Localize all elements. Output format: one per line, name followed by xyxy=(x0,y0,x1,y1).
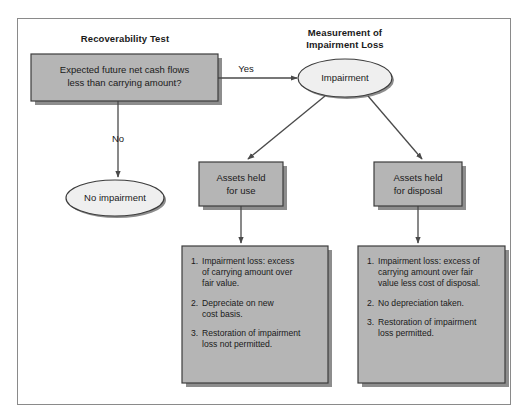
disposal-details-item: 3.Restoration of impairment loss permitt… xyxy=(367,317,501,339)
impairment-flowchart-figure: Recoverability Test Measurement of Impai… xyxy=(0,0,528,419)
use-details-item-text: Impairment loss: excess of carrying amou… xyxy=(202,256,323,290)
edge-impairment-to-held-for-disposal xyxy=(368,96,422,159)
use-details-item-number: 3. xyxy=(191,328,202,350)
heading-measurement-of-impairment-loss: Measurement of Impairment Loss xyxy=(275,27,415,51)
decision-box-label: Expected future net cash flows less than… xyxy=(33,64,216,89)
use-details-item-text: Restoration of impairment loss not permi… xyxy=(202,328,323,350)
disposal-details-list: 1.Impairment loss: excess of carrying am… xyxy=(367,256,501,339)
held-for-use-label: Assets held for use xyxy=(199,172,283,197)
use-details-list: 1.Impairment loss: excess of carrying am… xyxy=(191,256,323,350)
edge-label-no: No xyxy=(103,133,133,144)
disposal-details-item-number: 2. xyxy=(367,298,378,309)
edge-impairment-to-held-for-use xyxy=(248,96,325,159)
no-impairment-label: No impairment xyxy=(66,192,164,205)
disposal-details-item-number: 1. xyxy=(367,256,378,290)
edge-label-yes: Yes xyxy=(229,63,263,74)
held-for-disposal-label: Assets held for disposal xyxy=(374,172,462,197)
use-details-item-text: Depreciate on new cost basis. xyxy=(202,298,323,320)
heading-recoverability-test: Recoverability Test xyxy=(55,33,195,45)
use-details-item: 3.Restoration of impairment loss not per… xyxy=(191,328,323,350)
disposal-details-item-text: Restoration of impairment loss permitted… xyxy=(378,317,501,339)
flowchart-canvas xyxy=(0,0,528,419)
disposal-details-item-number: 3. xyxy=(367,317,378,339)
impairment-label: Impairment xyxy=(298,72,392,85)
disposal-details-item: 1.Impairment loss: excess of carrying am… xyxy=(367,256,501,290)
use-details-item-number: 1. xyxy=(191,256,202,290)
use-details-item: 1.Impairment loss: excess of carrying am… xyxy=(191,256,323,290)
disposal-details-item: 2.No depreciation taken. xyxy=(367,298,501,309)
use-details-item: 2.Depreciate on new cost basis. xyxy=(191,298,323,320)
use-details-item-number: 2. xyxy=(191,298,202,320)
disposal-details-item-text: Impairment loss: excess of carrying amou… xyxy=(378,256,501,290)
disposal-details-item-text: No depreciation taken. xyxy=(378,298,501,309)
